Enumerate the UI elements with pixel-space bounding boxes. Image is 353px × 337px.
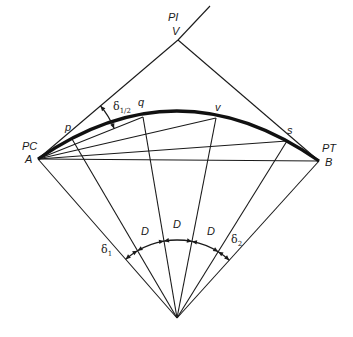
- radial-line-b: [177, 161, 319, 318]
- angle-D-3-arrowhead: [192, 240, 197, 244]
- label-D-right: D: [207, 225, 215, 237]
- angle-D-2-arrowhead: [187, 238, 192, 242]
- label-D-mid: D: [173, 218, 181, 230]
- angle-arrows: [100, 106, 229, 260]
- angle-D-1-arrowhead: [159, 240, 164, 244]
- label-pi: PI: [168, 11, 178, 23]
- label-p: p: [64, 121, 71, 133]
- label-A: A: [24, 153, 32, 165]
- chord-A-b: [38, 159, 319, 161]
- angle-delta-half-arrowhead: [110, 123, 114, 128]
- label-v: v: [215, 101, 222, 113]
- tangent-line-ahead: [178, 40, 319, 161]
- curve-diagram: PI V PC A PT B p q v s δ1/2 δ1 δ2 D D D: [0, 0, 353, 337]
- label-pt: PT: [322, 142, 337, 154]
- label-delta-half: δ1/2: [113, 100, 131, 115]
- label-D-left: D: [141, 225, 149, 237]
- radial-line-q: [143, 117, 177, 318]
- label-pc: PC: [22, 140, 37, 152]
- construction-lines: [38, 6, 319, 318]
- label-B: B: [325, 156, 332, 168]
- tangent-line-back: [38, 40, 178, 159]
- tangent-extension: [178, 6, 210, 40]
- label-s: s: [287, 124, 293, 136]
- radial-line-a: [38, 159, 177, 318]
- label-q: q: [138, 96, 145, 108]
- label-V: V: [172, 25, 181, 37]
- radial-line-s: [177, 141, 287, 318]
- label-delta-2: δ2: [231, 233, 242, 248]
- label-delta-1: δ1: [101, 243, 112, 258]
- radial-line-p: [72, 139, 177, 318]
- angle-D-2-arrowhead: [164, 238, 169, 242]
